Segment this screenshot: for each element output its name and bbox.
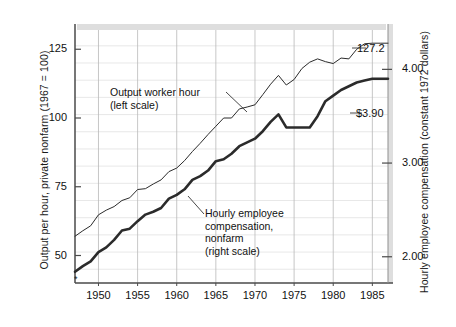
x-axis-tick-label: 1980 — [313, 289, 353, 301]
x-axis-tick-label: 1970 — [235, 289, 275, 301]
compensation-annotation: Hourly employee compensation, nonfarm (r… — [205, 207, 284, 257]
plot-canvas: * — [0, 0, 456, 327]
leader-lines — [188, 48, 366, 214]
compensation-end-label: $3.90 — [356, 107, 384, 119]
x-axis-tick-label: 1975 — [274, 289, 314, 301]
y-axis-right-tick-label: 3.00 — [402, 156, 423, 168]
y-axis-right-tick-label: 2.00 — [402, 250, 423, 262]
y-axis-left-tick-label: 50 — [33, 249, 67, 261]
x-axis-tick-label: 1960 — [157, 289, 197, 301]
y-axis-left-tick-label: 125 — [33, 42, 67, 54]
x-axis-tick-label: 1985 — [352, 289, 392, 301]
svg-text:*: * — [74, 274, 78, 284]
y-axis-left-tick-label: 75 — [33, 180, 67, 192]
output-end-label: 127.2 — [357, 42, 385, 54]
y-axis-left-tick-label: 100 — [33, 111, 67, 123]
x-axis-tick-label: 1965 — [196, 289, 236, 301]
output-annotation: Output worker hour (left scale) — [110, 86, 200, 111]
chart-figure: Output per hour, private nonfarm (1967 =… — [0, 0, 456, 327]
y-axis-right-tick-label: 4.00 — [402, 62, 423, 74]
x-axis-tick-label: 1955 — [118, 289, 158, 301]
x-axis-tick-label: 1950 — [78, 289, 118, 301]
